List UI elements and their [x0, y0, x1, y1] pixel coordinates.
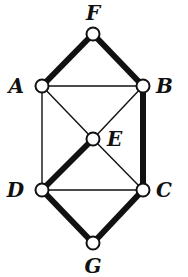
node-D [36, 184, 49, 197]
edge-F-B [93, 34, 143, 86]
edge-E-D [42, 139, 93, 190]
node-F [87, 28, 100, 41]
node-label-G: G [84, 254, 101, 277]
nodes-group [36, 28, 150, 250]
edge-D-G [42, 190, 93, 243]
node-B [137, 80, 150, 93]
node-label-A: A [6, 74, 24, 98]
node-E [87, 133, 100, 146]
node-label-C: C [156, 178, 172, 202]
edge-F-A [42, 34, 93, 86]
graph-diagram: FABEDCG [0, 0, 188, 277]
edge-C-G [93, 190, 143, 243]
node-A [36, 80, 49, 93]
node-label-E: E [106, 127, 123, 151]
edge-A-E [42, 86, 93, 139]
node-label-B: B [155, 74, 173, 98]
node-C [137, 184, 150, 197]
node-label-D: D [6, 178, 25, 202]
node-G [87, 237, 100, 250]
node-label-F: F [85, 1, 102, 25]
